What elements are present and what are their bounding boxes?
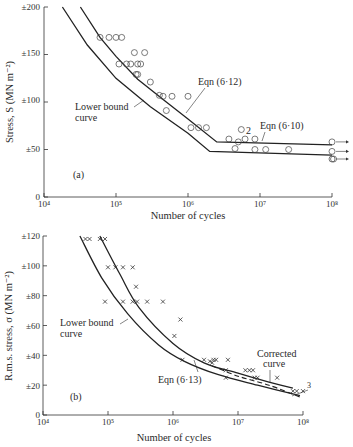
data-point: [286, 147, 292, 153]
y-tick-60: ±60: [26, 321, 40, 331]
data-point: [121, 300, 125, 304]
chart-b-panel-label: (b): [70, 391, 82, 403]
y-tick-50: ±50: [26, 144, 40, 154]
eqn-6-10-leader: [262, 132, 265, 141]
data-point: [161, 300, 165, 304]
y-tick-150: ±150: [22, 48, 41, 58]
data-point: [243, 368, 247, 372]
lower-bound-label-b-line2: curve: [60, 328, 83, 339]
runout-arrow-icon: [336, 157, 349, 160]
data-point: [83, 237, 87, 241]
chart-a-x-axis-title: Number of cycles: [151, 210, 226, 221]
runout-arrow-icon: [336, 150, 349, 153]
chart-b-y-tick-labels: 0 ±20 ±40 ±60 ±80 ±100 ±120: [22, 231, 41, 420]
data-point: [172, 334, 176, 338]
runout-arrow-icon: [336, 140, 349, 143]
y-tick-40: ±40: [26, 351, 40, 361]
data-point: [226, 358, 230, 362]
data-point: [147, 79, 153, 85]
chart-a-data-points: [97, 34, 349, 162]
y-tick-120: ±120: [22, 231, 41, 241]
data-point: [121, 265, 125, 269]
chart-a-x-tick-labels: 10⁴ 10⁵ 10⁶ 10⁷ 10⁸: [38, 199, 338, 209]
eqn-6-12-label: Eqn (6·12): [198, 76, 242, 88]
y-tick-20: ±20: [26, 381, 40, 391]
data-point: [160, 93, 166, 99]
x-tick-1e5: 10⁵: [110, 199, 122, 209]
figure-canvas: 0 ±50 ±100 ±150 ±200 10⁴ 10⁵ 10⁶ 10⁷ 10⁸…: [0, 0, 353, 447]
data-point: [135, 300, 139, 304]
data-point: [106, 34, 112, 40]
data-point: [188, 125, 194, 131]
chart-a-y-tick-labels: 0 ±50 ±100 ±150 ±200: [22, 2, 41, 202]
data-point: [131, 50, 137, 56]
data-point: [232, 146, 238, 152]
data-point: [131, 265, 135, 269]
corrected-curve-label-line2: curve: [263, 358, 286, 369]
x-tick-1e6: 10⁶: [167, 417, 179, 427]
data-point: [291, 389, 295, 393]
data-point: [88, 237, 92, 241]
data-point: [242, 136, 248, 142]
data-point: [145, 300, 149, 304]
data-point: [226, 136, 232, 142]
data-point: [135, 71, 141, 77]
data-point: [251, 368, 255, 372]
x-tick-1e4: 10⁴: [38, 199, 50, 209]
data-point: [128, 61, 134, 67]
y-tick-100: ±100: [22, 95, 41, 105]
x-tick-1e8: 10⁸: [326, 199, 338, 209]
x-tick-1e8: 10⁸: [297, 417, 309, 427]
data-point: [208, 359, 212, 363]
x-tick-1e7: 10⁷: [232, 417, 244, 427]
lower-bound-label-a-line2: curve: [75, 112, 98, 123]
eqn-6-13-label: Eqn (6·13): [158, 374, 202, 386]
data-point: [116, 61, 122, 67]
point-annotation-3: 3: [307, 381, 311, 390]
data-point: [103, 300, 107, 304]
chart-b: 0 ±20 ±40 ±60 ±80 ±100 ±120 10⁴ 10⁵ 10⁶ …: [3, 231, 311, 443]
eqn-6-10-label: Eqn (6·10): [260, 120, 304, 132]
chart-a: 0 ±50 ±100 ±150 ±200 10⁴ 10⁵ 10⁶ 10⁷ 10⁸…: [4, 2, 349, 221]
data-point: [203, 125, 209, 131]
data-point: [252, 136, 258, 142]
x-tick-1e5: 10⁵: [102, 417, 114, 427]
data-point: [119, 34, 125, 40]
y-tick-100: ±100: [22, 261, 41, 271]
lower-bound-label-b-line1: Lower bound: [60, 317, 114, 328]
point-annotation-2: 2: [246, 125, 251, 136]
x-tick-1e6: 10⁶: [182, 199, 194, 209]
chart-b-x-tick-labels: 10⁴ 10⁵ 10⁶ 10⁷ 10⁸: [37, 417, 309, 427]
x-tick-1e4: 10⁴: [37, 417, 49, 427]
data-point: [185, 93, 191, 99]
data-point: [329, 156, 335, 162]
data-point: [247, 368, 251, 372]
data-point: [329, 139, 335, 145]
data-point: [169, 93, 175, 99]
y-tick-200: ±200: [22, 2, 41, 12]
x-tick-1e7: 10⁷: [254, 199, 266, 209]
data-point: [214, 358, 218, 362]
data-point: [113, 34, 119, 40]
data-point: [163, 108, 169, 114]
data-point: [295, 389, 299, 393]
chart-b-x-axis-title: Number of cycles: [137, 432, 212, 443]
chart-b-y-axis-title: R.m.s. stress, σ (MN m⁻²): [3, 270, 15, 381]
lower-bound-label-a-line1: Lower bound: [75, 101, 129, 112]
lower-bound-a-leader: [134, 100, 144, 107]
chart-a-y-axis-title: Stress, S (MN m⁻²): [4, 60, 16, 143]
data-point: [263, 147, 269, 153]
data-point: [329, 148, 335, 154]
eqn-6-12-leader: [186, 88, 205, 113]
data-point: [202, 358, 206, 362]
data-point: [238, 127, 244, 133]
data-point: [331, 156, 337, 162]
data-point: [134, 285, 138, 289]
data-point: [103, 237, 107, 241]
data-point: [142, 50, 148, 56]
data-point: [275, 376, 279, 380]
lower-bound-b-leader: [120, 319, 128, 324]
data-point: [178, 318, 182, 322]
data-point: [106, 265, 110, 269]
data-point: [252, 147, 258, 153]
